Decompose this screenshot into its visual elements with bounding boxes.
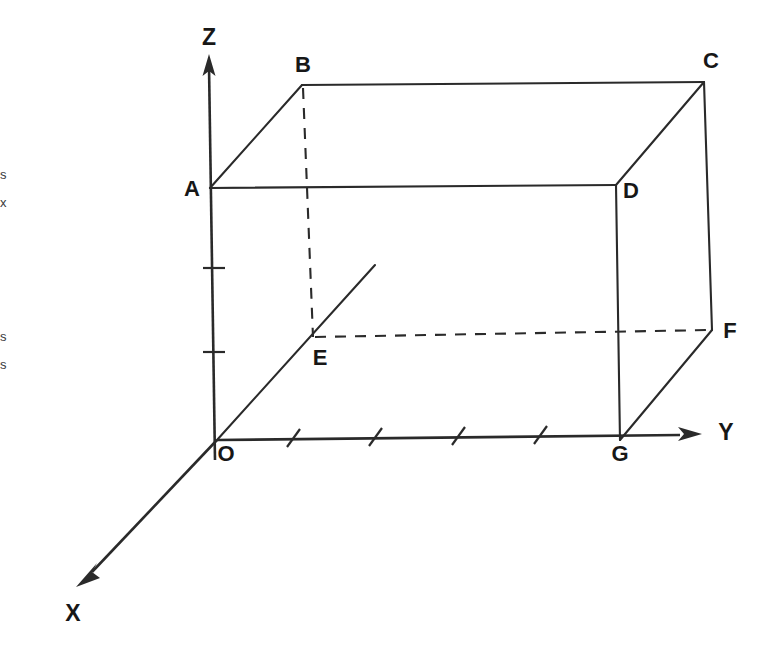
vertex-label-B: B <box>295 52 311 77</box>
axis-label-x: X <box>65 600 81 626</box>
z-axis-line <box>209 66 215 460</box>
axis-labels: Z Y X <box>65 24 733 626</box>
edge-A-B <box>210 85 302 188</box>
vertex-label-F: F <box>723 318 736 343</box>
margin-sliver-3: s <box>0 330 7 343</box>
three-d-box-figure: A B C D E F G O Z Y X <box>0 0 767 665</box>
diagram-canvas: A B C D E F G O Z Y X s x s s <box>0 0 767 665</box>
vertex-label-A: A <box>184 176 200 201</box>
x-axis-line <box>92 440 217 572</box>
vertex-label-C: C <box>703 48 719 73</box>
edge-A-D <box>210 185 616 188</box>
edge-E-F-dashed <box>315 330 710 337</box>
margin-sliver-4: s <box>0 358 7 371</box>
edge-F-G <box>620 330 712 440</box>
edge-B-E-dashed <box>303 88 313 337</box>
edge-D-G <box>616 185 620 440</box>
vertex-label-E: E <box>313 345 328 370</box>
edge-B-C <box>302 82 704 85</box>
vertex-label-D: D <box>623 178 639 203</box>
vertex-label-O: O <box>217 441 234 466</box>
axis-label-z: Z <box>202 24 216 50</box>
axis-label-y: Y <box>718 419 733 445</box>
y-axis-tick-4 <box>534 426 547 444</box>
edge-D-C <box>616 82 704 185</box>
y-axis-arrowhead <box>678 427 702 441</box>
y-axis-tick-3 <box>452 427 465 445</box>
margin-sliver-2: x <box>0 196 7 209</box>
margin-sliver-1: s <box>0 168 7 181</box>
edge-C-F <box>704 82 712 330</box>
box-edges-hidden <box>303 88 710 337</box>
vertex-labels: A B C D E F G O <box>184 48 737 466</box>
edge-O-E-ray <box>217 265 375 440</box>
axis-group <box>76 54 702 587</box>
y-axis-line <box>217 435 680 440</box>
vertex-label-G: G <box>611 441 628 466</box>
box-edges-solid <box>210 82 712 440</box>
